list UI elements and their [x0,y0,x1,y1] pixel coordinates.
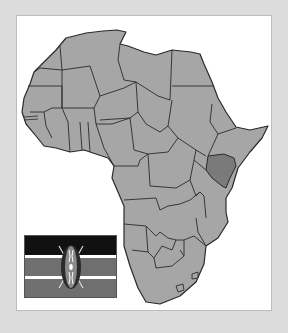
kenya-flag-icon [24,235,117,298]
eswatini-region [176,284,184,292]
shield-spears-icon [25,236,117,298]
